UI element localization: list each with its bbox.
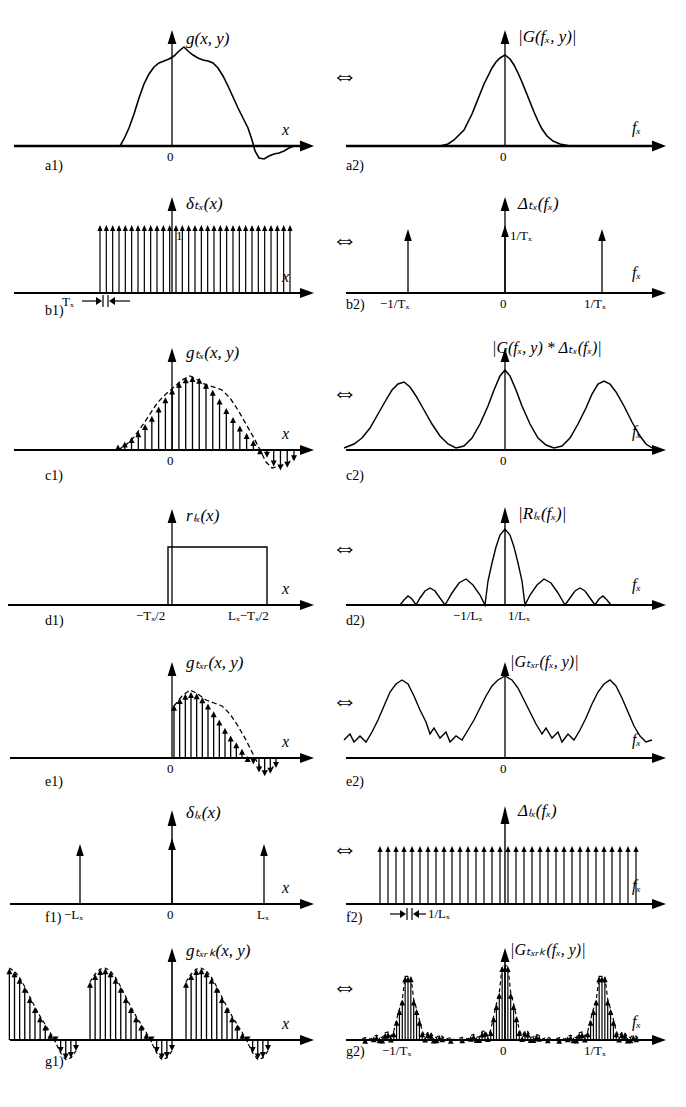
panel-e1: gₜₓᵣ(x, y) x 0 e1)	[0, 648, 330, 788]
function-label-g1: gₜₓᵣₖ(x, y)	[186, 942, 250, 959]
panel-id-e2: e2)	[346, 774, 364, 790]
y-axis-arrow-f1	[168, 810, 177, 826]
x-axis-arrow-c1	[300, 445, 314, 455]
plot-e1	[0, 648, 330, 788]
panel-a1: g(x, y) x 0 a1)	[0, 18, 330, 168]
axis-label-a2: fₓ	[632, 120, 641, 136]
panel-id-g2: g2)	[346, 1044, 365, 1060]
axis-label-f1: x	[282, 880, 289, 896]
x-axis-arrow-b2	[652, 288, 666, 298]
function-label-g2: |Gₜₓᵣₖ(fₓ, y)|	[510, 942, 586, 958]
panel-id-g1: g1)	[45, 1054, 64, 1070]
tick-pos-f1: Lₓ	[257, 908, 269, 921]
row-b: δₜₓ(x) x 1 Tₓ b1) ⇔	[0, 185, 686, 325]
panel-id-f2: f2)	[346, 910, 362, 926]
x-axis-arrow-g1	[300, 1035, 314, 1045]
panel-c1: gₜₓ(x, y) x 0 c1)	[0, 332, 330, 482]
function-label-f2: Δₗₓ(fₓ)	[518, 802, 557, 819]
tick-zero-g2: 0	[500, 1044, 507, 1057]
y-axis-arrow-f2	[501, 806, 510, 824]
spacing-label-f2: 1/Lₓ	[428, 907, 450, 920]
panel-b2: Δₜₓ(fₓ) fₓ 1/Tₓ −1/Tₓ 0 1/Tₓ b2)	[340, 185, 686, 315]
function-label-e2: |Gₜₓᵣ(fₓ, y)|	[510, 654, 579, 670]
panel-id-e1: e1)	[45, 774, 63, 790]
tick-zero-e2: 0	[500, 762, 507, 775]
y-axis-arrow-b2	[501, 197, 510, 211]
axis-label-b2: fₓ	[632, 265, 641, 281]
x-axis-arrow-d2	[652, 600, 666, 610]
y-axis-arrow-c1	[168, 348, 177, 362]
panel-g2: |Gₜₓᵣₖ(fₓ, y)| fₓ −1/Tₓ 0 1/Tₓ g2)	[340, 942, 686, 1082]
x-axis-arrow-g2	[652, 1035, 666, 1045]
x-axis-arrow-f2	[652, 899, 666, 909]
y-axis-arrow-e2	[501, 662, 510, 676]
panel-id-c2: c2)	[346, 468, 364, 484]
figure-fourier-transform-pairs: g(x, y) x 0 a1) ⇔ |G(fₓ, y)| fₓ 0 a2)	[0, 0, 686, 1107]
panel-c2: |G(fₓ, y) * Δₜₓ(fₓ)| fₓ 0 c2)	[340, 332, 686, 482]
tick-neg-d2: −1/Lₓ	[453, 609, 482, 622]
axis-label-a1: x	[282, 122, 289, 138]
axis-label-d1: x	[282, 581, 289, 597]
axis-label-e2: fₓ	[632, 732, 641, 748]
function-label-b2: Δₜₓ(fₓ)	[518, 195, 559, 212]
tick-neg-g2: −1/Tₓ	[382, 1044, 411, 1057]
function-label-e1: gₜₓᵣ(x, y)	[186, 654, 243, 671]
panel-id-a2: a2)	[346, 158, 364, 174]
x-axis-arrow-c2	[652, 445, 666, 455]
panel-f1: δₗₓ(x) x −Lₓ 0 Lₓ f1)	[0, 800, 330, 930]
row-g: gₜₓᵣₖ(x, y) x g1) ⇔ |Gₜₓᵣₖ(fₓ, y)| fₓ −1…	[0, 942, 686, 1092]
axis-label-c1: x	[282, 426, 289, 442]
function-label-a2: |G(fₓ, y)|	[518, 28, 577, 45]
axis-label-g2: fₓ	[632, 1014, 641, 1030]
plot-a1	[0, 18, 330, 168]
y-axis-arrow-g2	[501, 948, 510, 962]
function-label-a1: g(x, y)	[186, 30, 229, 47]
impulse-train-b1	[97, 225, 292, 293]
panel-id-d1: d1)	[45, 613, 64, 629]
panel-a2: |G(fₓ, y)| fₓ 0 a2)	[340, 18, 686, 168]
row-c: gₜₓ(x, y) x 0 c1) ⇔ |G(fₓ, y) * Δₜₓ(fₓ)|…	[0, 332, 686, 492]
signal-curve-a1	[120, 47, 294, 159]
impulse-train-b2	[404, 225, 606, 293]
function-label-d1: rₗₓ(x)	[186, 507, 219, 524]
x-axis-arrow-d1	[300, 600, 314, 610]
function-label-b1: δₜₓ(x)	[186, 195, 223, 212]
x-axis-arrow-a2	[652, 141, 666, 152]
panel-id-f1: f1)	[45, 910, 61, 926]
axis-label-g1: x	[282, 1016, 289, 1032]
row-e: gₜₓᵣ(x, y) x 0 e1) ⇔ |Gₜₓᵣ(fₓ, y)| fₓ 0 …	[0, 648, 686, 798]
x-axis-arrow-f1	[300, 899, 314, 909]
y-axis-arrow-g1	[168, 948, 177, 962]
plot-g2	[340, 942, 686, 1082]
rect-window-d1	[168, 547, 267, 605]
panel-d2: |Rₗₓ(fₓ)| fₓ −1/Lₓ 1/Lₓ d2)	[340, 497, 686, 632]
x-axis-arrow-b1	[300, 288, 314, 298]
tick-zero-f1: 0	[167, 908, 174, 921]
tick-zero-b2: 0	[500, 297, 507, 310]
x-axis-arrow-e2	[652, 753, 666, 763]
function-label-c2: |G(fₓ, y) * Δₜₓ(fₓ)|	[492, 340, 602, 356]
row-a: g(x, y) x 0 a1) ⇔ |G(fₓ, y)| fₓ 0 a2)	[0, 18, 686, 178]
tick-zero-c1: 0	[167, 454, 174, 467]
panel-id-b2: b2)	[346, 297, 365, 313]
tick-zero-e1: 0	[167, 762, 174, 775]
plot-b1	[0, 185, 330, 315]
panel-d1: rₗₓ(x) x −Tₓ/2 Lₓ−Tₓ/2 d1)	[0, 497, 330, 632]
panel-id-b1: b1)	[45, 303, 64, 319]
y-axis-arrow-d2	[501, 507, 510, 523]
function-label-c1: gₜₓ(x, y)	[186, 344, 239, 361]
function-label-d2: |Rₗₓ(fₓ)|	[518, 505, 566, 522]
row-f: δₗₓ(x) x −Lₓ 0 Lₓ f1) ⇔ Δₗₓ(fₓ) fₓ	[0, 800, 686, 940]
amplitude-label-b1: 1	[176, 229, 183, 242]
y-axis-arrow-a2	[501, 30, 510, 44]
tick-zero-c2: 0	[500, 454, 507, 467]
x-axis-arrow-a1	[300, 141, 314, 152]
plot-a2	[340, 18, 686, 168]
y-axis-arrow-d1	[168, 509, 177, 523]
tick-start-d1: −Tₓ/2	[136, 609, 165, 622]
x-axis-arrow-e1	[300, 753, 314, 763]
axis-label-b1: x	[282, 269, 289, 285]
spectrum-curve-e2	[344, 676, 652, 742]
tick-pos-d2: 1/Lₓ	[508, 609, 530, 622]
spacing-marker-b1	[80, 293, 140, 309]
